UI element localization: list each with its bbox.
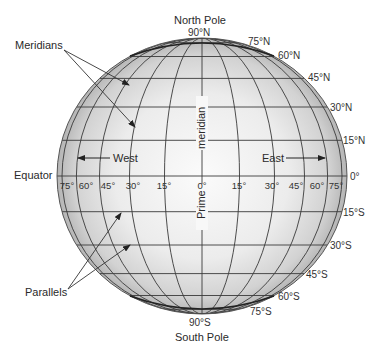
meridian-label-15e: 15°	[232, 181, 246, 191]
parallel-label-45n: 45°N	[308, 72, 330, 83]
meridian-label-15w: 15°	[157, 181, 171, 191]
south-pole-lat: 90°S	[189, 317, 211, 328]
meridian-label-0: 0°	[197, 181, 206, 191]
meridian-label-30e: 30°	[265, 181, 279, 191]
equator-callout: Equator	[14, 169, 53, 181]
meridian-label-45w: 45°	[101, 181, 115, 191]
parallel-label-60n: 60°N	[278, 50, 300, 61]
prime-meridian-label-top: meridian	[195, 107, 207, 149]
meridian-label-30w: 30°	[126, 181, 140, 191]
meridian-label-60w: 60°	[79, 181, 93, 191]
parallel-label-30s: 30°S	[330, 240, 352, 251]
parallels-callout: Parallels	[25, 286, 67, 298]
west-label: West	[113, 152, 138, 164]
parallel-label-15s: 15°S	[343, 207, 365, 218]
meridian-label-60e: 60°	[310, 181, 324, 191]
meridians-callout: Meridians	[15, 39, 63, 51]
meridian-label-75e: 75°	[329, 181, 343, 191]
parallel-label-60s: 60°S	[278, 291, 300, 302]
east-label: East	[262, 152, 284, 164]
equator-degree-label: 0°	[350, 171, 360, 182]
north-pole-label: North Pole	[174, 14, 226, 26]
parallel-label-45s: 45°S	[306, 269, 328, 280]
meridian-label-45e: 45°	[289, 181, 303, 191]
prime-meridian-label-bottom: Prime	[195, 190, 207, 219]
north-pole-lat: 90°N	[188, 27, 210, 38]
parallel-label-15n: 15°N	[343, 135, 365, 146]
parallel-label-75s: 75°S	[250, 306, 272, 317]
parallel-label-75n: 75°N	[248, 36, 270, 47]
south-pole-label: South Pole	[175, 331, 229, 343]
parallel-label-30n: 30°N	[330, 102, 352, 113]
meridian-label-75w: 75°	[60, 181, 74, 191]
